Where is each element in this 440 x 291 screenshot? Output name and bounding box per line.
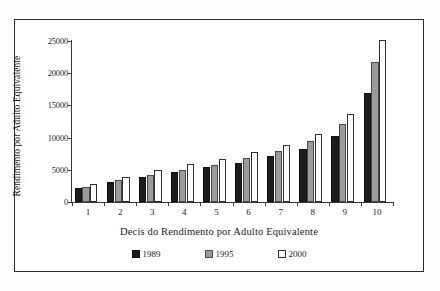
bars-layer — [72, 41, 393, 202]
y-axis-tick-mark — [68, 202, 71, 203]
x-axis-tick-label: 5 — [214, 207, 219, 217]
x-axis-tick-mark — [393, 202, 394, 206]
y-axis-title: Rendimento por Adulto Equivalente — [12, 46, 22, 206]
x-axis-tick-mark — [233, 202, 234, 206]
bar-1995-decile-6 — [243, 158, 250, 202]
bar-group — [107, 41, 130, 202]
bar-1995-decile-2 — [115, 180, 122, 202]
bar-1989-decile-2 — [107, 182, 114, 202]
bar-2000-decile-2 — [122, 177, 129, 202]
legend-item-label: 1995 — [216, 249, 234, 259]
y-axis-tick-label: 15000 — [48, 100, 68, 110]
x-axis-tick-mark — [361, 202, 362, 206]
chart-figure: 0500010000150002000025000 Rendimento por… — [0, 0, 440, 291]
bar-1989-decile-1 — [75, 188, 82, 202]
bar-2000-decile-9 — [347, 114, 354, 202]
bar-1995-decile-9 — [339, 124, 346, 202]
y-axis-tick-mark — [68, 41, 71, 42]
bar-1989-decile-7 — [267, 156, 274, 202]
x-axis-tick-mark — [72, 202, 73, 206]
x-axis-tick-label: 9 — [343, 207, 348, 217]
gray-square-icon — [205, 250, 213, 258]
bar-1989-decile-9 — [331, 136, 338, 202]
bar-group — [75, 41, 98, 202]
x-axis-tick-mark — [136, 202, 137, 206]
chart-legend: 198919952000 — [14, 249, 424, 259]
bar-2000-decile-5 — [219, 159, 226, 202]
bar-2000-decile-3 — [154, 170, 161, 202]
bar-2000-decile-8 — [315, 134, 322, 202]
y-axis-tick-label: 5000 — [52, 165, 68, 175]
white-square-icon — [278, 250, 286, 258]
legend-item-1989: 1989 — [132, 249, 161, 259]
y-axis-tick-labels: 0500010000150002000025000 — [28, 0, 68, 291]
x-axis-tick-label: 3 — [150, 207, 155, 217]
bar-1995-decile-4 — [179, 170, 186, 202]
y-axis-tick-label: 10000 — [48, 133, 68, 143]
black-square-icon — [132, 250, 140, 258]
y-axis-tick-mark — [68, 73, 71, 74]
bar-group — [299, 41, 322, 202]
x-axis-ticks: 12345678910 — [72, 202, 393, 222]
x-axis-tick-mark — [200, 202, 201, 206]
bar-1989-decile-8 — [299, 149, 306, 202]
x-axis-tick-mark — [329, 202, 330, 206]
bar-2000-decile-10 — [379, 40, 386, 202]
bar-group — [364, 41, 387, 202]
y-axis-tick-label: 20000 — [48, 68, 68, 78]
x-axis-tick-label: 4 — [182, 207, 187, 217]
y-axis-tick-mark — [68, 105, 71, 106]
bar-1989-decile-3 — [139, 177, 146, 202]
y-axis-tick-label: 25000 — [48, 36, 68, 46]
bar-2000-decile-4 — [187, 164, 194, 202]
x-axis-title: Decis do Rendimento por Adulto Equivalen… — [14, 226, 424, 237]
bar-1995-decile-7 — [275, 151, 282, 202]
x-axis-tick-label: 7 — [278, 207, 283, 217]
bar-1995-decile-8 — [307, 141, 314, 202]
bar-group — [203, 41, 226, 202]
bar-1995-decile-3 — [147, 175, 154, 202]
x-axis-tick-label: 2 — [118, 207, 123, 217]
bar-1989-decile-10 — [364, 93, 371, 202]
x-axis-tick-label: 1 — [86, 207, 91, 217]
bar-1995-decile-5 — [211, 165, 218, 202]
legend-item-2000: 2000 — [278, 249, 307, 259]
y-axis-tick-mark — [68, 138, 71, 139]
x-axis-tick-mark — [265, 202, 266, 206]
legend-item-1995: 1995 — [205, 249, 234, 259]
legend-item-label: 1989 — [143, 249, 161, 259]
bar-2000-decile-7 — [283, 145, 290, 202]
bar-1989-decile-5 — [203, 167, 210, 202]
bar-group — [171, 41, 194, 202]
bar-group — [235, 41, 258, 202]
bar-2000-decile-6 — [251, 152, 258, 202]
bar-1995-decile-10 — [371, 62, 378, 202]
bar-2000-decile-1 — [90, 184, 97, 202]
bar-group — [331, 41, 354, 202]
y-axis-tick-mark — [68, 170, 71, 171]
x-axis-tick-mark — [168, 202, 169, 206]
bar-1989-decile-4 — [171, 172, 178, 202]
x-axis-tick-label: 8 — [311, 207, 316, 217]
bar-group — [139, 41, 162, 202]
legend-item-label: 2000 — [289, 249, 307, 259]
bar-1989-decile-6 — [235, 163, 242, 202]
bar-1995-decile-1 — [82, 187, 89, 202]
bar-group — [267, 41, 290, 202]
x-axis-tick-mark — [104, 202, 105, 206]
x-axis-tick-label: 6 — [246, 207, 251, 217]
x-axis-tick-label: 10 — [372, 207, 381, 217]
x-axis-tick-mark — [297, 202, 298, 206]
